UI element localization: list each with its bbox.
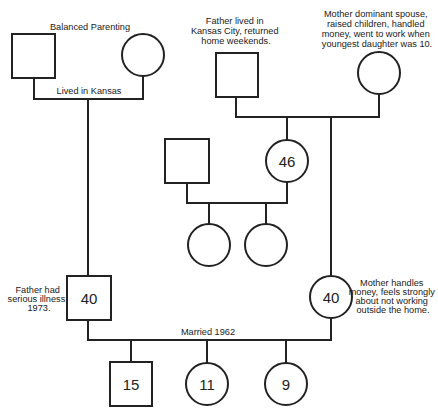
father-age: 40 [81,290,98,307]
cousin-1-circle [188,224,230,266]
father-note: Father had serious illness, 1973. [8,285,71,313]
paternal-marriage-note: Lived in Kansas [57,86,122,96]
maternal-grandmother-circle [358,52,400,94]
note-line: Mother dominant spouse, [324,9,428,19]
note-line: outside the home. [356,305,429,315]
cousin-2-circle [245,224,287,266]
aunt-husband-square [165,139,209,183]
note-line: raised children, handled [327,19,425,29]
mother-age: 40 [323,289,340,306]
aunt-age: 46 [279,153,296,170]
note-line: home weekends. [201,36,270,46]
note-line: Father lived in [206,16,264,26]
daughter-1-age: 11 [199,376,215,393]
maternal-grandfather-square [216,53,258,97]
note-line: youngest daughter was 10. [322,39,432,49]
aunt-marriage-line [187,182,287,203]
son-age: 15 [123,376,140,393]
daughter-2-age: 9 [282,376,290,393]
parents-marriage-note: Married 1962 [181,327,235,337]
maternal-grandmother-note: Mother dominant spouse, raised children,… [322,9,433,49]
paternal-grandmother-circle [122,34,164,76]
note-line: Kansas City, returned [191,26,279,36]
paternal-grandparents-note: Balanced Parenting [50,22,130,32]
genogram-diagram: 46 40 40 15 11 9 Balanced Parenting Live… [0,0,438,415]
mother-note: Mother handles money, feels strongly abo… [349,278,438,315]
paternal-grandfather-square [12,34,55,78]
note-line: 1973. [28,303,51,313]
maternal-grandfather-note: Father lived in Kansas City, returned ho… [191,16,281,46]
note-line: money, went to work when [322,29,430,39]
